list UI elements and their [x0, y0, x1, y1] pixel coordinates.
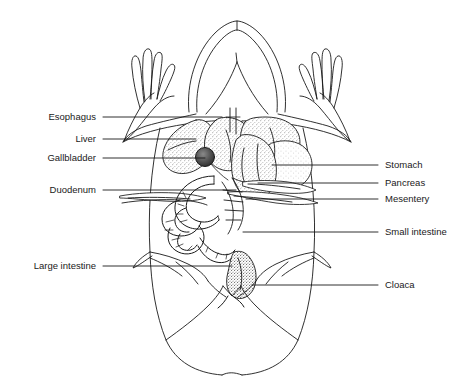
label-cloaca: Cloaca [385, 280, 415, 290]
figure-canvas: EsophagusLiverGallbladderDuodenumLarge i… [0, 0, 463, 377]
label-stomach: Stomach [385, 160, 423, 170]
label-duodenum: Duodenum [50, 185, 96, 195]
large-intestine [227, 251, 256, 298]
label-gallbladder: Gallbladder [47, 153, 96, 163]
small-intestine [162, 176, 235, 263]
frog-head [188, 21, 285, 114]
label-small-intestine: Small intestine [385, 227, 447, 237]
label-liver: Liver [75, 134, 96, 144]
label-mesentery: Mesentery [385, 194, 429, 204]
label-large-intestine: Large intestine [34, 261, 96, 271]
label-esophagus: Esophagus [48, 112, 96, 122]
label-pancreas: Pancreas [385, 178, 425, 188]
